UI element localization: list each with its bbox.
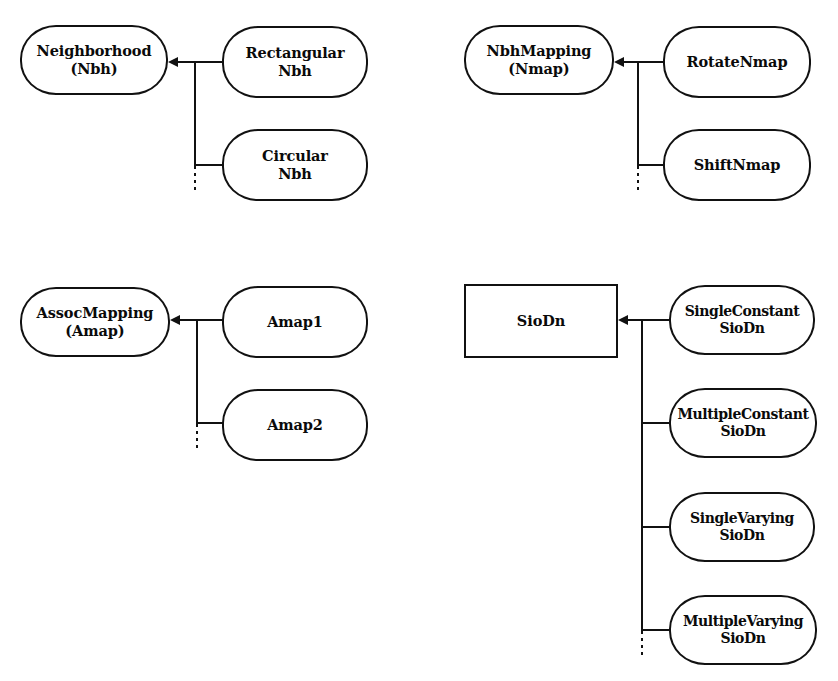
node-multipleconstant-siodn-label: MultipleConstant SioDn (677, 406, 808, 440)
connector-nbhmapping-trunk (637, 61, 639, 166)
node-amap2[interactable]: Amap2 (222, 389, 368, 461)
connector-assocmapping-continuation (196, 424, 198, 452)
node-nbhmapping[interactable]: NbhMapping (Nmap) (464, 25, 614, 95)
node-shiftnmap[interactable]: ShiftNmap (663, 129, 811, 201)
node-multiplevarying-siodn-label: MultipleVarying SioDn (683, 613, 803, 647)
connector-neighborhood-continuation (194, 166, 196, 194)
node-neighborhood-label: Neighborhood (Nbh) (37, 42, 152, 77)
node-singlevarying-siodn[interactable]: SingleVarying SioDn (669, 492, 815, 562)
node-shiftnmap-label: ShiftNmap (694, 156, 781, 174)
node-rectangular-nbh[interactable]: Rectangular Nbh (222, 26, 368, 98)
arrowhead-neighborhood (168, 57, 178, 67)
node-assocmapping-label: AssocMapping (Amap) (37, 304, 154, 339)
node-siodn[interactable]: SioDn (464, 284, 618, 358)
connector-siodn-trunk (641, 319, 643, 631)
node-siodn-label: SioDn (517, 312, 565, 330)
node-singlevarying-siodn-label: SingleVarying SioDn (690, 510, 794, 544)
node-amap2-label: Amap2 (267, 416, 323, 434)
connector-nbhmapping-arrow-line (624, 61, 666, 63)
connector-siodn-continuation (641, 631, 643, 659)
arrowhead-assocmapping (170, 315, 180, 325)
node-neighborhood[interactable]: Neighborhood (Nbh) (20, 25, 168, 95)
arrowhead-siodn (618, 315, 628, 325)
connector-nbhmapping-continuation (637, 166, 639, 194)
diagram-canvas: Neighborhood (Nbh) Rectangular Nbh Circu… (0, 0, 838, 681)
arrowhead-nbhmapping (614, 57, 624, 67)
connector-assocmapping-trunk (196, 319, 198, 424)
node-multiplevarying-siodn[interactable]: MultipleVarying SioDn (669, 595, 817, 665)
node-rotatenmap[interactable]: RotateNmap (663, 26, 811, 98)
node-assocmapping[interactable]: AssocMapping (Amap) (20, 287, 170, 357)
connector-siodn-arrow-line (628, 319, 672, 321)
connector-neighborhood-arrow-line (178, 61, 224, 63)
node-circular-nbh-label: Circular Nbh (262, 147, 328, 182)
node-singleconstant-siodn-label: SingleConstant SioDn (685, 303, 800, 337)
node-singleconstant-siodn[interactable]: SingleConstant SioDn (669, 285, 815, 355)
node-amap1-label: Amap1 (267, 313, 323, 331)
connector-neighborhood-trunk (194, 61, 196, 166)
connector-assocmapping-arrow-line (180, 319, 224, 321)
node-rotatenmap-label: RotateNmap (687, 53, 788, 71)
node-circular-nbh[interactable]: Circular Nbh (222, 129, 368, 201)
node-rectangular-nbh-label: Rectangular Nbh (246, 44, 345, 79)
node-multipleconstant-siodn[interactable]: MultipleConstant SioDn (669, 388, 817, 458)
node-nbhmapping-label: NbhMapping (Nmap) (487, 42, 592, 77)
node-amap1[interactable]: Amap1 (222, 286, 368, 358)
